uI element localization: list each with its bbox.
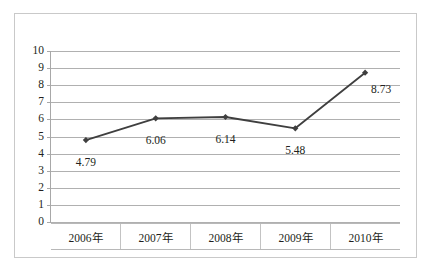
x-axis-category-band: 2006年2007年2008年2009年2010年	[51, 223, 400, 250]
y-axis-tick-label-wrap: 5	[18, 131, 44, 143]
data-point-marker	[222, 114, 228, 120]
x-axis-category-label: 2010年	[331, 224, 400, 249]
y-axis-tick-label: 0	[18, 216, 44, 228]
y-axis-tick-label: 8	[18, 79, 44, 91]
y-axis-tick-label-wrap: 10	[18, 45, 44, 57]
data-point-value-label: 5.48	[285, 145, 305, 157]
y-axis-tick-label: 4	[18, 148, 44, 160]
data-point-marker	[153, 115, 159, 121]
y-axis-tick-label-wrap: 3	[18, 165, 44, 177]
y-axis-tick-label: 5	[18, 131, 44, 143]
y-axis-tick-label: 1	[18, 199, 44, 211]
y-axis-tick-label-wrap: 2	[18, 182, 44, 194]
y-axis-tick-label-wrap: 7	[18, 96, 44, 108]
x-axis-category-label: 2006年	[51, 224, 121, 249]
y-axis-tick-label-wrap: 8	[18, 79, 44, 91]
data-point-value-label: 4.79	[76, 157, 96, 169]
y-axis-tick-label: 7	[18, 96, 44, 108]
y-axis-tick-label: 6	[18, 113, 44, 125]
y-axis-tick-label: 10	[18, 45, 44, 57]
y-axis-tick-label-wrap: 0	[18, 216, 44, 228]
data-point-marker	[83, 137, 89, 143]
y-axis-tick-label: 2	[18, 182, 44, 194]
x-axis-category-label: 2007年	[121, 224, 191, 249]
line-chart-figure: 109876543210 4.796.066.145.488.73 2006年2…	[0, 0, 430, 273]
series-line	[86, 73, 365, 140]
y-axis-tick-label: 9	[18, 62, 44, 74]
data-point-value-label: 6.06	[146, 135, 166, 147]
data-point-value-label: 6.14	[215, 134, 235, 146]
y-axis-tick-label-wrap: 4	[18, 148, 44, 160]
data-point-value-label: 8.73	[371, 84, 391, 96]
y-axis-tick-label-wrap: 1	[18, 199, 44, 211]
x-axis-category-label: 2009年	[261, 224, 331, 249]
x-axis-category-label: 2008年	[191, 224, 261, 249]
y-axis-tick-label-wrap: 6	[18, 113, 44, 125]
y-axis-tick-label: 3	[18, 165, 44, 177]
y-axis-tick-label-wrap: 9	[18, 62, 44, 74]
